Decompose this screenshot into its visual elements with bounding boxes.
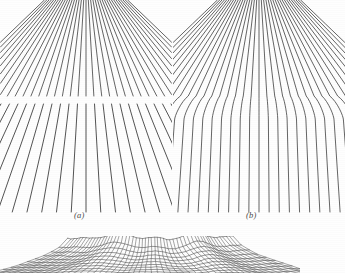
panel-a-caption: (a) [74, 210, 85, 220]
figure-page: (a) (b) [0, 0, 345, 273]
panel-b-caption: (b) [246, 210, 257, 220]
figure-panel-b [173, 0, 345, 215]
figure-panel-a [0, 0, 172, 215]
perspective-line-field-a [0, 0, 172, 215]
distorted-perspective-mesh [0, 236, 300, 273]
perspective-line-field-b [173, 0, 345, 215]
figure-panel-c-mesh [0, 236, 300, 273]
